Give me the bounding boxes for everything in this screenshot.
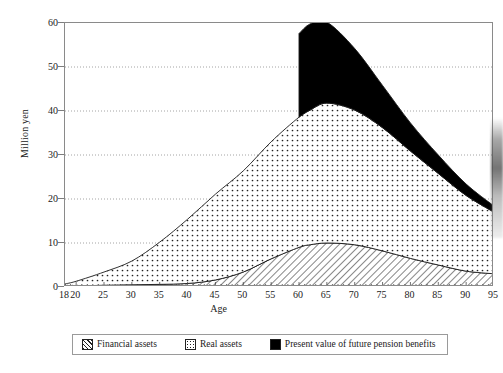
x-axis-title-text: Age <box>210 303 227 314</box>
legend-swatch-hatch-icon <box>82 339 93 350</box>
x-tick-label-70: 70 <box>349 289 359 300</box>
legend-item-financial-assets: Financial assets <box>82 339 157 350</box>
y-tick-label-40: 40 <box>18 105 58 116</box>
x-tick-label-55: 55 <box>265 289 275 300</box>
area-series-group <box>65 23 493 286</box>
legend-item-pension-benefits: Present value of future pension benefits <box>270 339 436 350</box>
x-tick-label-95: 95 <box>488 289 498 300</box>
x-tick-label-90: 90 <box>460 289 470 300</box>
y-tick-label-0: 0 <box>18 281 58 292</box>
y-tick-label-30: 30 <box>18 149 58 160</box>
stacked-area-chart <box>65 23 493 286</box>
legend-label-real-assets: Real assets <box>200 340 242 350</box>
x-tick-label-80: 80 <box>404 289 414 300</box>
x-tick-label-60: 60 <box>293 289 303 300</box>
x-tick-label-35: 35 <box>154 289 164 300</box>
x-tick-label-25: 25 <box>98 289 108 300</box>
chart-figure: Million yen 0102030405060 18202530354045… <box>0 0 503 373</box>
x-tick-label-20: 20 <box>70 289 80 300</box>
legend-swatch-dots-icon <box>185 339 196 350</box>
x-tick-label-18: 18 <box>59 289 69 300</box>
y-tick-mark <box>58 286 64 287</box>
x-tick-label-50: 50 <box>237 289 247 300</box>
x-tick-label-75: 75 <box>377 289 387 300</box>
legend-item-real-assets: Real assets <box>185 339 242 350</box>
y-tick-label-60: 60 <box>18 17 58 28</box>
y-axis-title: Million yen <box>19 84 30 184</box>
x-tick-label-30: 30 <box>126 289 136 300</box>
x-tick-label-40: 40 <box>182 289 192 300</box>
y-tick-label-50: 50 <box>18 61 58 72</box>
legend-label-pension-benefits: Present value of future pension benefits <box>285 340 436 350</box>
y-tick-label-10: 10 <box>18 237 58 248</box>
x-tick-label-45: 45 <box>209 289 219 300</box>
x-axis-title: Age <box>0 303 503 314</box>
x-tick-label-65: 65 <box>321 289 331 300</box>
x-tick-label-85: 85 <box>432 289 442 300</box>
plot-area <box>64 22 493 286</box>
chart-legend: Financial assets Real assets Present val… <box>72 334 448 355</box>
y-tick-label-20: 20 <box>18 193 58 204</box>
legend-label-financial-assets: Financial assets <box>97 340 157 350</box>
legend-swatch-solid-icon <box>270 339 281 350</box>
